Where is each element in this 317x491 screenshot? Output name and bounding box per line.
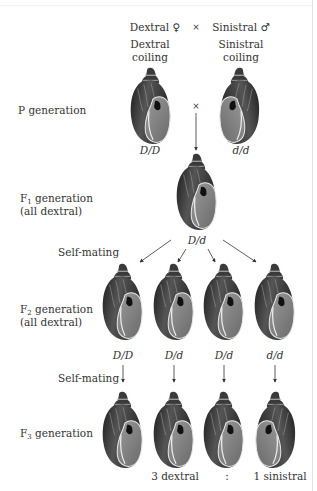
f2-shell-2-icon: [151, 262, 197, 342]
f2-genotype-3: D/d: [215, 349, 234, 362]
f3-dextral-shell-1-icon: [100, 390, 146, 470]
f2-all-dextral-label: (all dextral): [20, 316, 82, 329]
f3-dextral-shell-3-icon: [201, 390, 247, 470]
f3-sinistral-shell-icon: [252, 390, 298, 470]
f2-genotype-4: d/d: [267, 349, 284, 362]
ratio-sinistral: 1 sinistral: [253, 470, 306, 483]
f2-shell-3-icon: [201, 262, 247, 342]
f2-shell-1-icon: [100, 262, 146, 342]
f3-dextral-shell-2-icon: [151, 390, 197, 470]
self-mating-label-2: Self-mating: [58, 372, 119, 385]
f2-shell-4-icon: [252, 262, 298, 342]
f2-genotype-2: D/d: [165, 349, 184, 362]
ratio-dextral: 3 dextral: [151, 470, 199, 483]
f1-dextral-shell-icon: [174, 152, 220, 232]
f1-all-dextral-label: (all dextral): [20, 205, 82, 218]
f3-generation-label: F3 generation: [20, 427, 93, 444]
ratio-separator: :: [225, 470, 229, 483]
self-mating-label-1: Self-mating: [58, 246, 119, 259]
f1-genotype: D/d: [188, 234, 207, 247]
f2-genotype-1: D/D: [113, 349, 133, 362]
